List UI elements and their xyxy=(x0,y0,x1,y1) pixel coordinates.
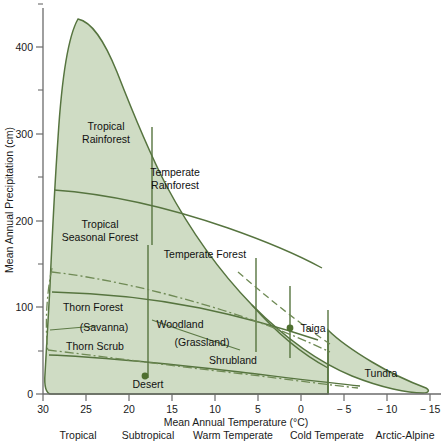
y-ticklabel-200: 200 xyxy=(15,215,33,227)
label-tropical-rainforest-line2: Rainforest xyxy=(82,133,130,145)
whittaker-biome-diagram: Tropical Rainforest Temperate Rainforest… xyxy=(0,0,445,441)
label-taiga: Taiga xyxy=(300,322,325,334)
y-axis-title: Mean Annual Precipitation (cm) xyxy=(3,127,15,273)
y-ticklabel-100: 100 xyxy=(15,301,33,313)
taiga-point-marker xyxy=(287,325,294,332)
climate-zone-warm-temperate: Warm Temperate xyxy=(193,429,273,441)
label-thorn-scrub: Thorn Scrub xyxy=(66,340,124,352)
climate-zone-tropical: Tropical xyxy=(60,429,97,441)
x-ticklabel-minus5: − 5 xyxy=(337,403,352,415)
climate-zone-cold-temperate: Cold Temperate xyxy=(290,429,364,441)
x-ticklabel-30: 30 xyxy=(37,403,49,415)
y-ticklabel-400: 400 xyxy=(15,41,33,53)
label-temperate-rainforest-line2: Rainforest xyxy=(151,179,199,191)
climate-zone-subtropical: Subtropical xyxy=(122,429,175,441)
label-grassland: (Grassland) xyxy=(175,336,230,348)
x-ticklabel-15: 15 xyxy=(166,403,178,415)
label-temperate-forest: Temperate Forest xyxy=(164,248,246,260)
y-ticklabel-0: 0 xyxy=(27,388,33,400)
biome-envelope-shape xyxy=(45,19,429,394)
y-ticklabel-300: 300 xyxy=(15,128,33,140)
x-axis: 30 25 20 15 10 5 0 − 5 − 10 − 15 Mean An… xyxy=(37,394,441,428)
climate-zone-group: Tropical Subtropical Warm Temperate Cold… xyxy=(60,429,435,441)
biome-chart-svg: Tropical Rainforest Temperate Rainforest… xyxy=(0,0,445,441)
x-ticklabel-25: 25 xyxy=(80,403,92,415)
x-axis-title: Mean Annual Temperature (°C) xyxy=(164,416,309,428)
x-ticklabel-20: 20 xyxy=(123,403,135,415)
biome-envelope-group xyxy=(45,19,429,394)
label-tundra: Tundra xyxy=(365,367,398,379)
climate-zone-arctic-alpine: Arctic-Alpine xyxy=(376,429,435,441)
label-woodland: Woodland xyxy=(156,318,203,330)
label-shrubland: Shrubland xyxy=(209,354,257,366)
label-tropical-seasonal-forest-line2: Seasonal Forest xyxy=(62,231,139,243)
x-ticklabel-minus15: − 15 xyxy=(420,403,441,415)
y-axis: 400 300 200 100 0 Mean Annual Precipitat… xyxy=(3,4,43,400)
label-savanna: (Savanna) xyxy=(80,321,128,333)
x-ticklabel-0: 0 xyxy=(298,403,304,415)
label-tropical-rainforest-line1: Tropical xyxy=(88,120,125,132)
x-ticklabel-10: 10 xyxy=(209,403,221,415)
label-thorn-forest: Thorn Forest xyxy=(63,301,123,313)
x-ticklabel-5: 5 xyxy=(255,403,261,415)
label-temperate-rainforest-line1: Temperate xyxy=(150,166,200,178)
label-desert: Desert xyxy=(133,378,164,390)
label-tropical-seasonal-forest-line1: Tropical xyxy=(82,218,119,230)
x-ticklabel-minus10: − 10 xyxy=(377,403,398,415)
